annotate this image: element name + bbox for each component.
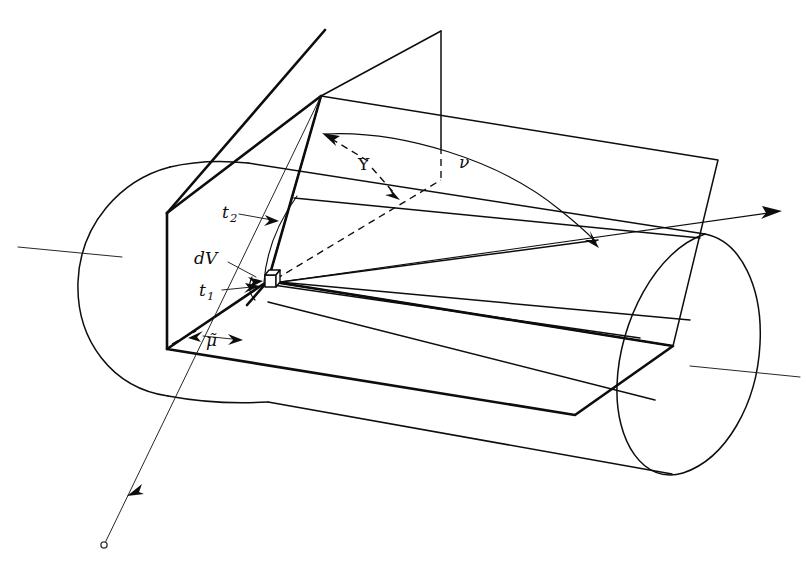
cylinder-axis-line-left xyxy=(18,247,122,257)
lower-plane-rib-lower xyxy=(268,302,655,400)
figure-root: dV t 1 t 2 Υ ν μ̃ xyxy=(0,0,806,569)
cylinder-left-cap-bottom-edge xyxy=(168,396,268,403)
mu-tilde-right-arrowhead xyxy=(228,334,243,345)
cut-plane-outline xyxy=(167,30,325,213)
label-nu: ν xyxy=(459,152,469,172)
ray-lower-divergent xyxy=(273,285,640,338)
dv-cube-front-face xyxy=(265,275,276,287)
diagram-text-labels: dV t 1 t 2 Υ ν μ̃ xyxy=(194,152,469,350)
incoming-ray-line xyxy=(105,96,321,543)
cut-plane-slant-edge xyxy=(167,96,321,213)
label-t2-base: t xyxy=(222,202,229,222)
lower-plane-ribs xyxy=(268,281,690,400)
outgoing-ray-arrowhead xyxy=(761,206,782,219)
nu-angle-arc xyxy=(325,134,599,248)
cylinder-right-cap xyxy=(617,234,760,475)
label-t2-subscript: 2 xyxy=(229,211,237,225)
label-t1-base: t xyxy=(199,280,206,300)
incoming-ray-terminus-dot xyxy=(101,542,107,548)
cylinder-left-cap xyxy=(78,167,170,396)
radiative-transfer-diagram: dV t 1 t 2 Υ ν μ̃ xyxy=(0,0,806,569)
t2-leader-arrowhead xyxy=(264,215,279,226)
label-upsilon: Υ xyxy=(357,154,370,174)
cylinder-axis-line-right xyxy=(690,366,800,377)
lower-plane-outline xyxy=(167,281,673,415)
label-t1-subscript: 1 xyxy=(207,289,214,303)
upper-plane-mid-rib xyxy=(294,198,700,238)
cylinder-bottom-profile xyxy=(268,402,672,474)
outgoing-ray-main xyxy=(273,212,775,283)
flag-hypotenuse xyxy=(321,31,441,96)
label-dv: dV xyxy=(194,248,219,268)
lower-slanted-plane xyxy=(167,281,673,415)
incoming-ray-arrowhead xyxy=(127,484,144,496)
upsilon-left-arrowhead xyxy=(322,133,340,146)
dv-leader-line xyxy=(228,262,256,277)
nu-arc-path xyxy=(325,134,596,242)
dv-volume-element-cube xyxy=(265,270,280,287)
ray-fan-from-dv xyxy=(273,212,775,338)
dv-leader xyxy=(228,262,263,288)
label-mu-tilde: μ̃ xyxy=(206,330,217,350)
cylinder-body xyxy=(18,161,800,475)
vertical-cut-plane xyxy=(167,30,325,349)
cylinder-top-profile xyxy=(248,163,705,234)
upsilon-right-arrowhead xyxy=(385,186,400,200)
t2-arc xyxy=(239,196,297,282)
